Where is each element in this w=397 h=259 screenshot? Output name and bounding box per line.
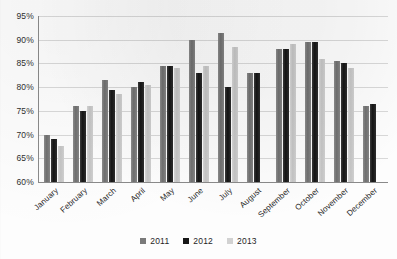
bar (312, 42, 318, 182)
bar (348, 68, 354, 182)
legend-swatch-icon (140, 238, 146, 244)
bar (334, 61, 340, 182)
x-axis-tick-label: March (95, 186, 118, 208)
bar (254, 73, 260, 182)
x-axis-tick: April (126, 186, 155, 234)
y-axis-tick-label: 90% (16, 35, 34, 45)
y-axis-tick-label: 75% (16, 106, 34, 116)
bar (290, 44, 296, 182)
bar (247, 73, 253, 182)
y-axis-tick-label: 95% (16, 11, 34, 21)
x-axis-tick-label: June (186, 186, 205, 205)
bar (232, 47, 238, 182)
bar (283, 49, 289, 182)
bar (58, 146, 64, 182)
x-axis-tick-label: April (128, 186, 146, 204)
y-axis-tick-label: 80% (16, 82, 34, 92)
bar (109, 90, 115, 182)
x-axis-tick: June (184, 186, 213, 234)
x-axis-tick: December (359, 186, 388, 234)
bar-groups (39, 16, 388, 182)
legend-item: 2011 (140, 236, 169, 246)
y-axis-tick-label: 60% (16, 177, 34, 187)
bar (167, 66, 173, 182)
y-axis: 95%90%85%80%75%70%65%60% (0, 0, 38, 183)
bar (276, 49, 282, 182)
bar (131, 87, 137, 182)
bar (87, 106, 93, 182)
bar (305, 42, 311, 182)
chart-legend: 201120122013 (0, 236, 397, 246)
bar (51, 139, 57, 182)
bar (363, 106, 369, 182)
legend-label: 2013 (237, 236, 257, 246)
bar-group (213, 16, 242, 182)
legend-label: 2011 (150, 236, 169, 246)
bar (116, 94, 122, 182)
bar-group (330, 16, 359, 182)
bar (370, 104, 376, 182)
bar (196, 73, 202, 182)
x-axis-tick: May (155, 186, 184, 234)
x-axis: JanuaryFebruaryMarchAprilMayJuneJulyAugu… (39, 186, 388, 234)
legend-item: 2013 (227, 236, 257, 246)
y-axis-tick-label: 70% (16, 130, 34, 140)
x-axis-tick-label: July (217, 186, 234, 202)
bar (145, 85, 151, 182)
bar-group (243, 16, 272, 182)
bar-group (68, 16, 97, 182)
bar (80, 111, 86, 182)
bar (189, 40, 195, 182)
x-axis-tick: September (272, 186, 301, 234)
bar (102, 80, 108, 182)
x-axis-tick-label: August (238, 186, 263, 210)
legend-swatch-icon (227, 238, 233, 244)
bar (341, 63, 347, 182)
bar-chart: 95%90%85%80%75%70%65%60% JanuaryFebruary… (0, 0, 397, 259)
y-axis-tick-label: 65% (16, 153, 34, 163)
x-axis-tick-label: January (32, 186, 60, 212)
bar-group (359, 16, 388, 182)
bar (73, 106, 79, 182)
x-axis-tick-label: May (158, 186, 175, 203)
y-axis-tick-label: 85% (16, 58, 34, 68)
bar-group (39, 16, 68, 182)
bar (319, 59, 325, 182)
x-axis-tick: February (68, 186, 97, 234)
bar-group (301, 16, 330, 182)
bar (225, 87, 231, 182)
bar (160, 66, 166, 182)
bar (44, 135, 50, 182)
bar-group (272, 16, 301, 182)
bar (138, 82, 144, 182)
legend-swatch-icon (183, 238, 189, 244)
bar-group (184, 16, 213, 182)
bar (174, 68, 180, 182)
bar (203, 66, 209, 182)
bar-group (155, 16, 184, 182)
legend-label: 2012 (193, 236, 213, 246)
legend-item: 2012 (183, 236, 213, 246)
bar (218, 33, 224, 182)
bar-group (97, 16, 126, 182)
x-axis-tick: March (97, 186, 126, 234)
x-axis-tick: July (213, 186, 242, 234)
bar-group (126, 16, 155, 182)
